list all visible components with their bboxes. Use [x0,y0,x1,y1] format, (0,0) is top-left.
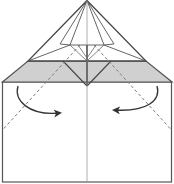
origami-diagram [0,0,174,184]
